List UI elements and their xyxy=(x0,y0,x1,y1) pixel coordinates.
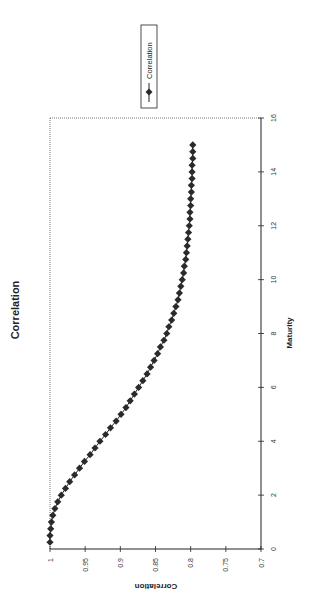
x-tick-label: 16 xyxy=(270,114,277,122)
data-point-diamond xyxy=(186,209,193,216)
data-point-diamond xyxy=(183,249,190,256)
data-point-diamond xyxy=(147,364,154,371)
data-point-diamond xyxy=(182,256,189,263)
data-point-diamond xyxy=(189,148,196,155)
data-point-diamond xyxy=(157,343,164,350)
data-point-diamond xyxy=(180,269,187,276)
data-point-diamond xyxy=(187,195,194,202)
data-point-diamond xyxy=(76,465,83,472)
y-tick-label: 0.8 xyxy=(187,558,194,568)
y-tick-label: 0.95 xyxy=(82,558,89,572)
data-point-diamond xyxy=(170,310,177,317)
data-point-diamond xyxy=(187,202,194,209)
data-point-diamond xyxy=(163,330,170,337)
y-tick-label: 0.7 xyxy=(258,558,265,568)
plot-area xyxy=(50,118,261,549)
legend-label: Correlation xyxy=(145,42,154,79)
x-tick-label: 12 xyxy=(270,222,277,230)
x-tick-label: 2 xyxy=(270,493,277,497)
x-axis-title: Maturity xyxy=(285,317,294,349)
data-point-diamond xyxy=(188,175,195,182)
data-point-diamond xyxy=(188,188,195,195)
data-point-diamond xyxy=(46,539,53,546)
legend: Correlation xyxy=(141,25,157,108)
data-point-diamond xyxy=(143,370,150,377)
data-point-diamond xyxy=(189,155,196,162)
data-point-diamond xyxy=(48,518,55,525)
data-point-diamond xyxy=(188,182,195,189)
axes xyxy=(50,118,261,549)
data-point-diamond xyxy=(154,350,161,357)
data-point-diamond xyxy=(168,316,175,323)
data-point-diamond xyxy=(188,168,195,175)
y-tick-label: 0.9 xyxy=(117,558,124,568)
data-point-diamond xyxy=(51,505,58,512)
data-point-diamond xyxy=(188,162,195,169)
y-tick-label: 0.85 xyxy=(152,558,159,572)
data-point-diamond xyxy=(150,357,157,364)
data-point-diamond xyxy=(184,236,191,243)
data-point-diamond xyxy=(62,485,69,492)
y-tick-label: 0.75 xyxy=(222,558,229,572)
data-point-diamond xyxy=(165,323,172,330)
data-point-diamond xyxy=(91,444,98,451)
correlation-chart: Correlation Correlation 0246810121416 0.… xyxy=(0,0,311,601)
data-point-diamond xyxy=(177,283,184,290)
data-point-diamond xyxy=(127,397,134,404)
series-correlation xyxy=(46,141,196,546)
data-point-diamond xyxy=(186,215,193,222)
x-tick-label: 6 xyxy=(270,385,277,389)
data-point-diamond xyxy=(179,276,186,283)
data-point-diamond xyxy=(189,141,196,148)
x-tick-label: 10 xyxy=(270,276,277,284)
data-point-diamond xyxy=(54,498,61,505)
x-tick-label: 8 xyxy=(270,331,277,335)
data-point-diamond xyxy=(131,391,138,398)
y-axis-ticks: 0.70.750.80.850.90.951 xyxy=(47,546,265,572)
y-tick-label: 1 xyxy=(47,558,54,562)
data-point-diamond xyxy=(186,222,193,229)
data-point-diamond xyxy=(135,384,142,391)
data-point-diamond xyxy=(58,492,65,499)
x-tick-label: 4 xyxy=(270,439,277,443)
chart-title: Correlation xyxy=(9,280,21,339)
data-point-diamond xyxy=(181,263,188,270)
data-point-diamond xyxy=(71,471,78,478)
data-point-diamond xyxy=(66,478,73,485)
data-point-diamond xyxy=(185,229,192,236)
data-point-diamond xyxy=(174,296,181,303)
data-point-diamond xyxy=(47,525,54,532)
data-point-diamond xyxy=(172,303,179,310)
data-point-diamond xyxy=(184,242,191,249)
data-point-diamond xyxy=(176,289,183,296)
data-point-diamond xyxy=(160,337,167,344)
x-tick-label: 0 xyxy=(270,547,277,551)
y-axis-title: Correlation xyxy=(135,582,178,591)
data-point-diamond xyxy=(117,411,124,418)
data-point-diamond xyxy=(122,404,129,411)
data-point-diamond xyxy=(139,377,146,384)
data-point-diamond xyxy=(46,532,53,539)
x-tick-label: 14 xyxy=(270,168,277,176)
